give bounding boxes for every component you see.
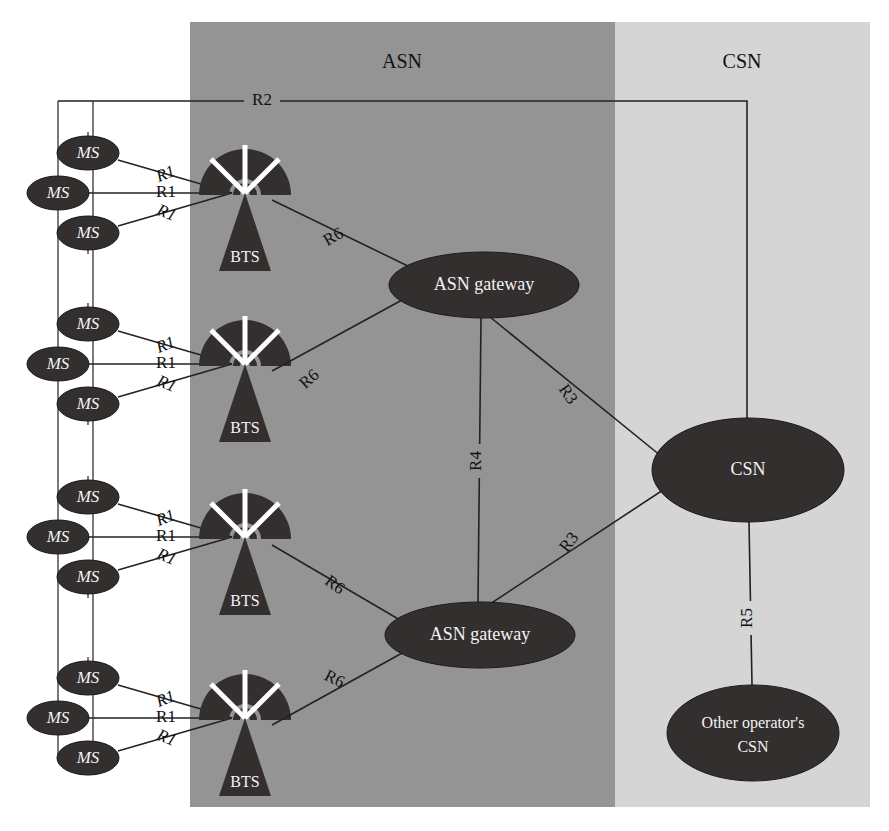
- ms-label: MS: [76, 143, 100, 162]
- other-operator-csn-label-line1: Other operator's: [702, 714, 805, 732]
- asn-gateway-label-1: ASN gateway: [434, 274, 534, 294]
- zone-title-csn: CSN: [723, 50, 762, 72]
- bts-label: BTS: [230, 248, 259, 265]
- interface-label-r1: R1: [156, 526, 176, 545]
- other-operator-csn-node[interactable]: [667, 685, 839, 781]
- interface-label-r2: R2: [252, 90, 272, 109]
- ms-label: MS: [46, 354, 70, 373]
- ms-label: MS: [76, 567, 100, 586]
- ms-label: MS: [76, 223, 100, 242]
- network-architecture-diagram: MS MS MS BTS R1 R1 R1 MS MS MS BTS: [0, 0, 889, 831]
- ms-label: MS: [46, 183, 70, 202]
- diagram-canvas: MS MS MS BTS R1 R1 R1 MS MS MS BTS: [0, 0, 889, 831]
- bts-label: BTS: [230, 773, 259, 790]
- interface-label-r4: R4: [466, 451, 485, 471]
- interface-label-r1: R1: [153, 725, 179, 750]
- interface-label-r1: R1: [156, 353, 176, 372]
- zone-title-asn: ASN: [382, 50, 422, 72]
- ms-label: MS: [76, 487, 100, 506]
- interface-label-r1: R1: [156, 707, 176, 726]
- ms-label: MS: [76, 314, 100, 333]
- bts-label: BTS: [230, 419, 259, 436]
- ms-label: MS: [76, 748, 100, 767]
- csn-label: CSN: [730, 459, 765, 479]
- ms-label: MS: [46, 708, 70, 727]
- interface-label-r1: R1: [153, 544, 179, 569]
- other-operator-csn-label-line2: CSN: [737, 738, 769, 755]
- ms-label: MS: [46, 527, 70, 546]
- ms-label: MS: [76, 668, 100, 687]
- asn-gateway-label-2: ASN gateway: [430, 624, 530, 644]
- ms-label: MS: [76, 394, 100, 413]
- interface-label-r1: R1: [153, 200, 179, 225]
- bts-label: BTS: [230, 592, 259, 609]
- interface-label-r5: R5: [737, 608, 756, 628]
- interface-label-r1: R1: [153, 371, 179, 396]
- interface-label-r1: R1: [156, 182, 176, 201]
